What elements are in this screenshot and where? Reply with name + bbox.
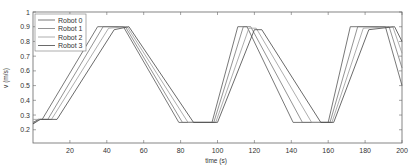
x-tick-label: 140 [285, 147, 297, 154]
y-tick-label: 0.7 [20, 53, 30, 60]
y-tick-label: 0.9 [20, 23, 30, 30]
y-tick-label: 0.4 [20, 97, 30, 104]
line-chart: 20406080100120140160180200 0.20.30.40.50… [0, 0, 419, 166]
x-tick-label: 100 [212, 147, 224, 154]
y-tick-label: 1 [26, 9, 30, 16]
x-tick-label: 80 [177, 147, 185, 154]
x-tick-label: 20 [66, 147, 74, 154]
x-tick-label: 120 [249, 147, 261, 154]
x-axis-label: time (s) [205, 157, 227, 165]
x-tick-label: 40 [103, 147, 111, 154]
legend-entry-label: Robot 2 [58, 34, 83, 41]
x-tick-label: 180 [359, 147, 371, 154]
y-tick-label: 0.2 [20, 126, 30, 133]
legend-entry-label: Robot 1 [58, 25, 83, 32]
y-tick-label: 0.5 [20, 82, 30, 89]
y-tick-label: 0.8 [20, 38, 30, 45]
y-tick-label: 0.6 [20, 67, 30, 74]
legend-entry-label: Robot 0 [58, 17, 83, 24]
legend: Robot 0Robot 1Robot 2Robot 3 [35, 14, 86, 51]
x-tick-label: 160 [322, 147, 334, 154]
y-tick-label: 0.3 [20, 112, 30, 119]
legend-entry-label: Robot 3 [58, 42, 83, 49]
x-tick-label: 60 [140, 147, 148, 154]
y-axis-label: v (m/s) [2, 68, 10, 88]
x-tick-label: 200 [396, 147, 408, 154]
